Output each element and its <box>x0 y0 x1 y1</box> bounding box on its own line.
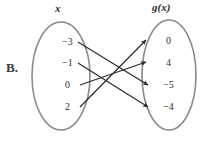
domain-value-1: −1 <box>62 57 73 68</box>
domain-set-ellipse <box>32 22 90 130</box>
range-value-0: 0 <box>166 35 171 46</box>
domain-value-2: 0 <box>65 79 70 90</box>
domain-value-3: 2 <box>65 101 70 112</box>
range-value-1: 4 <box>166 57 171 68</box>
mapping-diagram-canvas <box>0 0 200 142</box>
range-value-3: −4 <box>163 101 174 112</box>
arrow-neg1-to-neg4 <box>78 63 148 107</box>
mapping-diagram-figure: B. x g(x) −3−102 04−5−4 <box>0 0 200 142</box>
domain-value-0: −3 <box>62 36 73 47</box>
range-value-2: −5 <box>163 79 174 90</box>
